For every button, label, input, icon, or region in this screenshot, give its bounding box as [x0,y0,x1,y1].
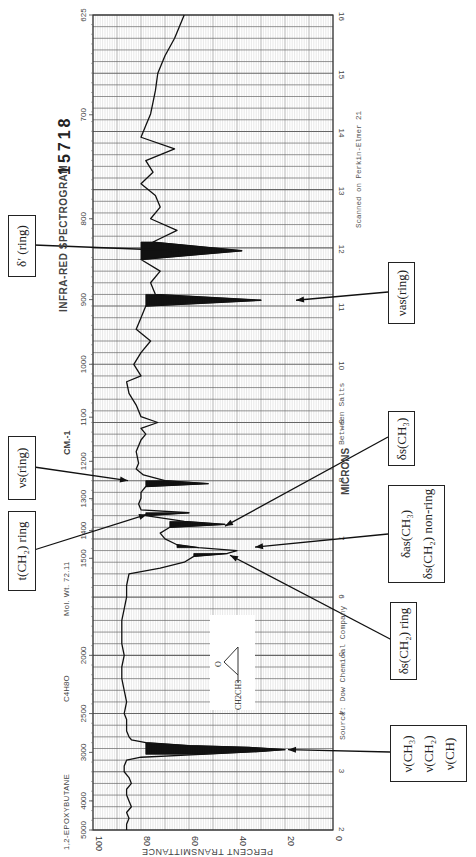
annotation-delta-prime-ring: δ′ (ring) [8,215,36,277]
transmittance-tick: 40 [238,836,248,846]
transmittance-axis-label: PERCENT TRANSMITTANCE [141,847,273,857]
arrow-nu-as-ring [296,292,388,300]
micron-tick: 2 [337,827,346,832]
scanned-text: Scanned on Perkin-Elmer 21 [355,111,363,228]
micron-tick: 3 [337,769,346,774]
annotation-t-ch2-ring: t(CH₂) ring [8,511,36,591]
spectrogram-number: 15718 [56,116,74,176]
wavenumber-tick: 1300 [79,489,88,507]
transmittance-tick: 20 [286,836,296,846]
wavenumber-unit: CM.-1 [62,431,72,456]
wavenumber-tick: 625 [79,8,88,22]
wavenumber-tick: 800 [79,212,88,226]
transmittance-tick: 100 [94,836,104,851]
micron-tick: 11 [337,303,346,312]
wavenumber-tick: 2500 [79,704,88,722]
structure-ethyl: CH2CH3 [234,680,243,710]
spectrogram-title: INFRA-RED SPECTROGRAM [58,165,69,312]
wavenumber-tick: 3000 [79,743,88,761]
wavenumber-tick: 1200 [79,452,88,470]
wavenumber-tick: 1500 [79,549,88,567]
compound-name: 1,2-EPOXYBUTANE [62,774,71,850]
transmittance-tick: 60 [190,836,200,846]
annotation-delta-s-ch2-ring: δs(CH₂) ring [390,602,417,680]
wavenumber-tick: 1100 [79,408,88,426]
micron-tick: 13 [337,187,346,196]
micron-tick: 15 [337,70,346,79]
annotation-delta-s-ch3: δs(CH₃) [388,411,415,466]
wavenumber-tick: 1000 [79,355,88,373]
wavenumber-tick: 2000 [79,646,88,664]
arrow-t-ch2-ring [34,514,147,550]
phase-text: Between Salts [337,383,346,445]
micron-tick: 12 [337,245,346,254]
wavenumber-tick: 5000 [79,821,88,839]
arrow-nu-ch [288,750,390,752]
wavenumber-tick: 4000 [79,791,88,809]
annotation-nu-as-ring: νas(ring) [388,262,415,324]
formula: C4H8O [62,675,71,702]
wavenumber-tick: 1400 [79,521,88,539]
structure-oxygen: O [214,661,223,667]
source-text: Source: Dow Chemical Company [338,606,347,740]
mol-weight: Mol. Wt. 72.11 [62,561,71,616]
arrow-delta-as-ch3 [255,534,388,547]
microns-label: MICRONS [340,448,351,495]
micron-tick: 16 [337,12,346,21]
annotation-nu-ch: ν(CH₃)ν(CH₂)ν(CH) [390,725,467,782]
micron-tick: 14 [337,128,346,137]
annotation-delta-as-ch3: δas(CH₃)δs(CH₂) non-ring [388,485,445,583]
micron-tick: 10 [337,361,346,370]
annotation-nu-s-ring: νs(ring) [8,436,36,500]
transmittance-tick: 80 [142,836,152,846]
transmittance-tick: 0 [334,836,344,841]
wavenumber-tick: 700 [79,108,88,122]
wavenumber-tick: 900 [79,292,88,306]
structure-diagram: O CH2CH3 [210,615,255,710]
micron-tick: 6 [337,594,346,599]
